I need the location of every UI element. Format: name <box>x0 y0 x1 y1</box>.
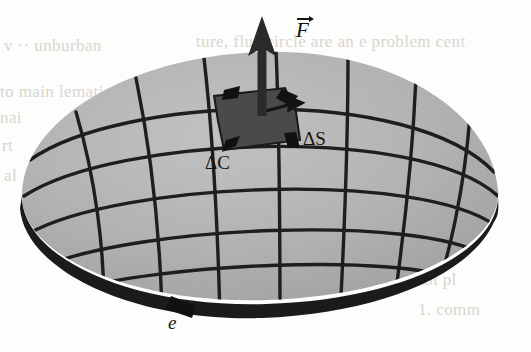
vector-arrow-accent <box>296 14 309 21</box>
boundary-curve-label: e <box>168 312 176 334</box>
surface-diagram <box>0 0 531 352</box>
force-vector-symbol: F <box>296 18 309 42</box>
figure-container: v ·· unburbanture, fluc circle are an e … <box>0 0 531 352</box>
force-vector-label: F <box>296 14 309 43</box>
delta-s-label: ΔS <box>303 128 326 150</box>
delta-c-label: ΔC <box>205 152 230 174</box>
